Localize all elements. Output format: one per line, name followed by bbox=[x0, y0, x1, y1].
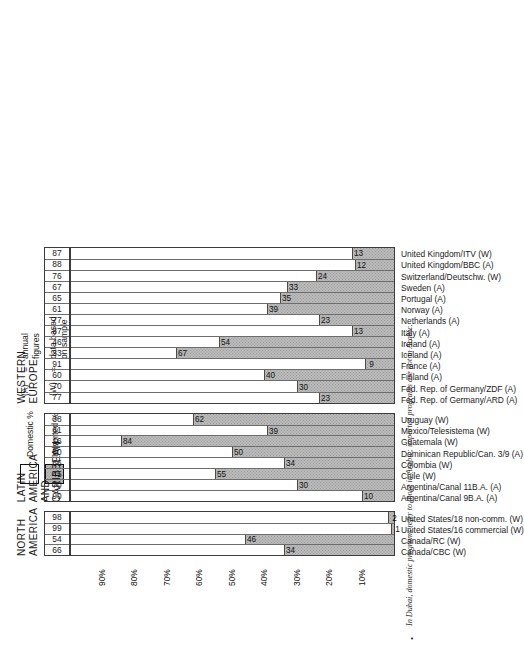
imported-value: 23 bbox=[321, 393, 330, 402]
domestic-value-cell: 50 bbox=[45, 446, 69, 457]
imported-bar[interactable]: 30 bbox=[297, 480, 395, 490]
domestic-value-cell: 61 bbox=[45, 425, 69, 436]
imported-bar[interactable]: 62 bbox=[193, 414, 395, 425]
domestic-value-cell: 90 bbox=[45, 490, 69, 501]
imported-bar[interactable]: 13 bbox=[352, 326, 394, 336]
imported-bar[interactable]: 12 bbox=[355, 260, 394, 270]
category-label: Norway (A) bbox=[401, 305, 443, 315]
category-label: Portugal (A) bbox=[401, 294, 446, 304]
imported-bar[interactable]: 50 bbox=[232, 447, 395, 457]
bar-column[interactable]: 23 bbox=[71, 392, 394, 403]
imported-bar[interactable]: 34 bbox=[284, 545, 395, 555]
group-heading: WESTERN EUROPE bbox=[16, 351, 40, 404]
domestic-value-cell: 16 bbox=[45, 435, 69, 446]
imported-bar[interactable]: 23 bbox=[319, 393, 394, 403]
axis-tick-label: 90% bbox=[97, 569, 107, 586]
bar-column[interactable]: 84 bbox=[71, 435, 394, 446]
domestic-value: 54 bbox=[52, 534, 61, 544]
imported-value: 24 bbox=[318, 271, 327, 280]
axis-tick-label: 30% bbox=[292, 569, 302, 586]
imported-bar[interactable]: 67 bbox=[176, 348, 394, 358]
imported-bar[interactable]: 39 bbox=[267, 426, 394, 436]
domestic-value: 98 bbox=[52, 513, 61, 523]
domestic-value-cell: 70 bbox=[45, 380, 69, 391]
imported-bar[interactable]: 24 bbox=[316, 271, 394, 281]
category-label: Argentina/Canal 11B.A. (A) bbox=[401, 482, 501, 492]
category-label: Uruguay (W) bbox=[401, 415, 448, 425]
domestic-value-cell: 76 bbox=[45, 270, 69, 281]
bar-column[interactable]: 55 bbox=[71, 468, 394, 479]
imported-value: 1 bbox=[395, 524, 400, 533]
category-label: Canada/CBC (W) bbox=[401, 547, 466, 557]
domestic-value-cell: 99 bbox=[45, 523, 69, 534]
imported-value: 34 bbox=[285, 546, 294, 555]
domestic-value-strip: 7770609133468777616567768887 bbox=[44, 247, 70, 404]
category-label: United Kingdom/BBC (A) bbox=[401, 260, 494, 270]
domestic-value-cell: 66 bbox=[45, 457, 69, 468]
imported-bar[interactable]: 40 bbox=[264, 370, 394, 380]
category-label: United Kingdom/ITV (W) bbox=[401, 249, 492, 259]
bar-column[interactable]: 24 bbox=[71, 270, 394, 281]
imported-bar[interactable]: 9 bbox=[365, 359, 394, 369]
bar-column[interactable]: 10 bbox=[71, 490, 394, 501]
imported-value: 30 bbox=[298, 481, 307, 490]
imported-bar[interactable]: 10 bbox=[362, 491, 395, 501]
bar-column[interactable]: 50 bbox=[71, 446, 394, 457]
imported-value: 50 bbox=[233, 448, 242, 457]
bar-column[interactable]: 39 bbox=[71, 425, 394, 436]
imported-bar[interactable]: 30 bbox=[297, 381, 395, 391]
imported-bar[interactable]: 1 bbox=[391, 524, 394, 534]
bar-column[interactable]: 34 bbox=[71, 544, 394, 555]
domestic-value-cell: 77 bbox=[45, 314, 69, 325]
bar-column[interactable]: 62 bbox=[71, 414, 394, 425]
bar-column[interactable]: 40 bbox=[71, 369, 394, 380]
domestic-value-cell: 61 bbox=[45, 303, 69, 314]
imported-value: 10 bbox=[363, 492, 372, 501]
bar-column[interactable]: 33 bbox=[71, 281, 394, 292]
imported-bar[interactable]: 23 bbox=[319, 315, 394, 325]
bar-column[interactable]: 67 bbox=[71, 347, 394, 358]
bar-column[interactable]: 30 bbox=[71, 380, 394, 391]
bar-column[interactable]: 34 bbox=[71, 457, 394, 468]
bar-column[interactable]: 13 bbox=[71, 248, 394, 259]
imported-bar[interactable]: 33 bbox=[287, 282, 394, 292]
axis-tick-label: 80% bbox=[129, 569, 139, 586]
bar-column[interactable]: 12 bbox=[71, 259, 394, 270]
bar-column[interactable]: 1 bbox=[71, 523, 394, 534]
domestic-value-cell: 91 bbox=[45, 358, 69, 369]
imported-bar[interactable]: 35 bbox=[280, 293, 394, 303]
imported-bar[interactable]: 2 bbox=[388, 512, 395, 523]
bar-column[interactable]: 9 bbox=[71, 358, 394, 369]
bar-group: 233040967541323393533241213 bbox=[70, 247, 395, 404]
imported-value: 9 bbox=[369, 360, 374, 369]
category-label: Netherlands (A) bbox=[401, 316, 460, 326]
imported-bar[interactable]: 54 bbox=[219, 337, 395, 347]
imported-bar[interactable]: 13 bbox=[352, 248, 394, 259]
imported-value: 40 bbox=[266, 371, 275, 380]
bar-column[interactable]: 54 bbox=[71, 336, 394, 347]
domestic-value-cell: 60 bbox=[45, 369, 69, 380]
bar-column[interactable]: 46 bbox=[71, 534, 394, 545]
domestic-value: 16 bbox=[52, 436, 61, 446]
bar-group: 344612 bbox=[70, 511, 395, 556]
imported-bar[interactable]: 84 bbox=[121, 436, 394, 446]
axis-tick-label: 50% bbox=[227, 569, 237, 586]
imported-bar[interactable]: 55 bbox=[215, 469, 394, 479]
category-label: United States/18 non-comm. (W) bbox=[401, 514, 523, 524]
bar-column[interactable]: 39 bbox=[71, 303, 394, 314]
imported-bar[interactable]: 39 bbox=[267, 304, 394, 314]
bar-column[interactable]: 30 bbox=[71, 479, 394, 490]
category-label: Chile (W) bbox=[401, 471, 436, 481]
category-label: Canada/RC (W) bbox=[401, 536, 461, 546]
bar-column[interactable]: 2 bbox=[71, 512, 394, 523]
bar-column[interactable]: 23 bbox=[71, 314, 394, 325]
imported-bar[interactable]: 46 bbox=[245, 535, 395, 545]
domestic-value: 70 bbox=[52, 480, 61, 490]
domestic-value: 88 bbox=[52, 260, 61, 270]
imported-bar[interactable]: 34 bbox=[284, 458, 395, 468]
domestic-value-cell: 33 bbox=[45, 347, 69, 358]
bar-column[interactable]: 13 bbox=[71, 325, 394, 336]
bar-column[interactable]: 35 bbox=[71, 292, 394, 303]
